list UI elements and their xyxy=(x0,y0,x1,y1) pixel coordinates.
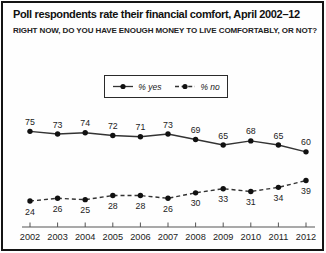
data-point xyxy=(221,186,226,191)
value-label: 60 xyxy=(301,137,311,147)
data-point xyxy=(138,134,143,139)
value-label: 39 xyxy=(301,186,311,196)
legend: % yes % no xyxy=(104,75,228,98)
x-axis-label: 2005 xyxy=(103,232,123,242)
value-label: 31 xyxy=(246,197,256,207)
data-point xyxy=(110,133,115,138)
x-axis-label: 2007 xyxy=(158,232,178,242)
value-label: 25 xyxy=(80,205,90,215)
value-label: 34 xyxy=(274,193,284,203)
x-axis-label: 2012 xyxy=(296,232,316,242)
legend-item-no: % no xyxy=(174,82,219,92)
x-axis-label: 2011 xyxy=(269,232,289,242)
value-label: 24 xyxy=(25,207,35,217)
x-axis-label: 2004 xyxy=(75,232,95,242)
data-point xyxy=(27,129,32,134)
data-point xyxy=(303,149,308,154)
value-label: 65 xyxy=(218,131,228,141)
value-label: 68 xyxy=(246,126,256,136)
data-point xyxy=(27,198,32,203)
data-point xyxy=(55,131,60,136)
data-point xyxy=(83,197,88,202)
yes-line-marker-icon xyxy=(112,82,134,91)
value-label: 74 xyxy=(80,118,90,128)
x-axis-label: 2009 xyxy=(213,232,233,242)
no-line-marker-icon xyxy=(174,82,196,91)
data-point xyxy=(248,138,253,143)
data-point xyxy=(55,196,60,201)
data-point xyxy=(221,142,226,147)
x-axis-label: 2008 xyxy=(185,232,205,242)
value-label: 28 xyxy=(136,201,146,211)
poll-chart-panel: Poll respondents rate their financial co… xyxy=(0,0,326,253)
value-label: 72 xyxy=(108,121,118,131)
data-point xyxy=(193,190,198,195)
value-label: 73 xyxy=(163,120,173,130)
legend-label-no: % no xyxy=(200,82,219,92)
x-axis-label: 2002 xyxy=(20,232,40,242)
data-point xyxy=(83,130,88,135)
legend-item-yes: % yes xyxy=(112,82,161,92)
chart-frame: Poll respondents rate their financial co… xyxy=(1,1,324,251)
value-label: 26 xyxy=(53,204,63,214)
line-chart: 2002200320042005200620072008200920102011… xyxy=(3,3,325,251)
value-label: 69 xyxy=(191,125,201,135)
data-point xyxy=(303,178,308,183)
legend-label-yes: % yes xyxy=(138,82,161,92)
data-point xyxy=(248,189,253,194)
data-point xyxy=(276,185,281,190)
value-label: 65 xyxy=(274,131,284,141)
value-label: 33 xyxy=(218,194,228,204)
value-label: 73 xyxy=(53,120,63,130)
data-point xyxy=(276,142,281,147)
x-axis-label: 2003 xyxy=(47,232,67,242)
value-label: 75 xyxy=(25,117,35,127)
data-point xyxy=(110,193,115,198)
data-point xyxy=(138,193,143,198)
data-point xyxy=(165,131,170,136)
value-label: 30 xyxy=(191,198,201,208)
x-axis-label: 2006 xyxy=(130,232,150,242)
data-point xyxy=(193,137,198,142)
value-label: 71 xyxy=(136,122,146,132)
value-label: 26 xyxy=(163,204,173,214)
data-point xyxy=(165,196,170,201)
value-label: 28 xyxy=(108,201,118,211)
x-axis-label: 2010 xyxy=(241,232,261,242)
